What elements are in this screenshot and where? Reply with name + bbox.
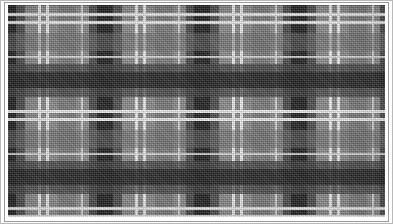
weft-stripe-dark-shadow-top	[8, 64, 385, 72]
tartan-cloth	[8, 5, 385, 217]
weft-stripe-mid-block	[8, 130, 385, 148]
weft-stripe-layer	[8, 5, 385, 217]
weft-stripe-white-pin-b	[8, 118, 385, 121]
weft-stripe-white-pin-a	[8, 13, 385, 16]
weft-stripe-white-pin-a	[8, 207, 385, 210]
tartan-image	[0, 0, 393, 224]
weft-stripe-white-pin-b	[8, 215, 385, 217]
weft-stripe-dark-shadow-bot	[8, 88, 385, 97]
weft-stripe-black-bar	[8, 169, 385, 185]
weft-stripe-mid-block	[8, 33, 385, 51]
weft-stripe-white-pin-c	[8, 153, 385, 155]
weft-stripe-white-pin-a	[8, 110, 385, 113]
weft-stripe-white-pin-b	[8, 21, 385, 24]
weft-stripe-dark-shadow-bot	[8, 185, 385, 194]
weft-stripe-black-bar	[8, 72, 385, 88]
weft-stripe-dark-shadow-top	[8, 161, 385, 169]
weft-stripe-white-pin-c	[8, 56, 385, 58]
